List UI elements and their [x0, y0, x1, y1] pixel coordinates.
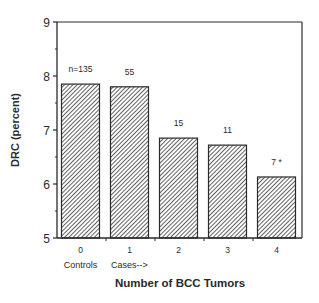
y-tick-label: 9	[43, 16, 50, 30]
y-tick-label: 7	[43, 124, 50, 138]
bar	[160, 138, 198, 238]
y-tick-label: 5	[43, 232, 50, 246]
bar	[209, 145, 247, 238]
bar-annotation: 7 *	[271, 157, 282, 167]
x-axis: 0Controls1Cases-->234	[57, 238, 302, 270]
y-axis: 56789	[43, 16, 57, 246]
x-category-sublabel: Cases-->	[111, 260, 148, 270]
bars: n=1355515117 *	[62, 64, 296, 238]
y-axis-label: DRC (percent)	[9, 93, 21, 167]
x-axis-label: Number of BCC Tumors	[115, 277, 245, 289]
x-tick-label: 0	[78, 245, 83, 255]
y-tick-label: 8	[43, 70, 50, 84]
bar-chart: 56789 n=1355515117 * 0Controls1Cases-->2…	[0, 0, 319, 303]
bar	[111, 87, 149, 238]
x-tick-label: 4	[274, 245, 279, 255]
bar	[258, 177, 296, 238]
bar-annotation: n=135	[69, 64, 93, 74]
x-tick-label: 1	[127, 245, 132, 255]
x-tick-label: 2	[176, 245, 181, 255]
x-tick-label: 3	[225, 245, 230, 255]
bar-annotation: 55	[125, 67, 135, 77]
bar-annotation: 11	[223, 125, 232, 135]
bar	[62, 84, 100, 238]
y-tick-label: 6	[43, 178, 50, 192]
bar-annotation: 15	[174, 118, 184, 128]
x-category-sublabel: Controls	[64, 260, 98, 270]
